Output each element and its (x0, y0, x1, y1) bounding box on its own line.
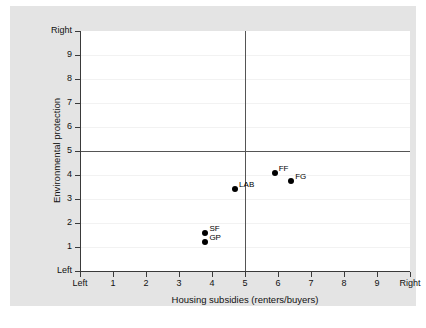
x-tick-Right (410, 272, 411, 277)
x-tick-2 (146, 272, 147, 277)
x-axis-title: Housing subsidies (renters/buyers) (80, 294, 410, 305)
data-point-ff[interactable] (272, 170, 278, 176)
data-point-label-ff: FF (279, 164, 289, 173)
x-tick-5 (245, 272, 246, 277)
graph-region: Left123456789Right Left123456789Right LA… (10, 6, 416, 306)
y-axis-line (80, 31, 81, 271)
y-tick-9 (75, 55, 80, 56)
y-axis-title: Environmental protection (51, 31, 62, 271)
y-tick-3 (75, 199, 80, 200)
y-tick-8 (75, 79, 80, 80)
y-tick-1 (75, 247, 80, 248)
x-tick-7 (311, 272, 312, 277)
y-tick-5 (75, 151, 80, 152)
chart-figure: Left123456789Right Left123456789Right LA… (0, 0, 426, 328)
y-tick-6 (75, 127, 80, 128)
x-tick-1 (113, 272, 114, 277)
y-tick-7 (75, 103, 80, 104)
data-point-label-fg: FG (295, 172, 306, 181)
data-point-label-lab: LAB (239, 180, 254, 189)
x-tick-4 (212, 272, 213, 277)
x-tick-8 (344, 272, 345, 277)
y-tick-2 (75, 223, 80, 224)
x-tick-Left (80, 272, 81, 277)
x-tick-9 (377, 272, 378, 277)
x-tick-3 (179, 272, 180, 277)
y-tick-4 (75, 175, 80, 176)
data-point-label-sf: SF (209, 224, 219, 233)
data-point-label-gp: GP (209, 233, 221, 242)
y-tick-Right (75, 31, 80, 32)
x-tick-6 (278, 272, 279, 277)
reference-line-horizontal (80, 151, 410, 152)
x-tick-label-Right: Right (390, 278, 426, 288)
